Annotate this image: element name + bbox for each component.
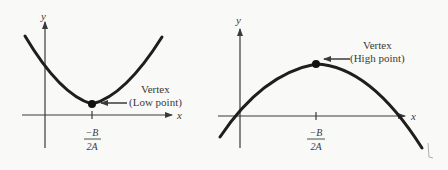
right-tick-numerator: −B xyxy=(310,127,323,138)
left-vertex-sublabel: (Low point) xyxy=(129,96,182,109)
left-vertex-label: Vertex xyxy=(141,83,170,95)
left-tick-denominator: 2A xyxy=(86,141,98,152)
right-graph: x y Vertex (High point) −B 2A xyxy=(218,14,433,158)
right-vertex-label: Vertex xyxy=(363,39,392,51)
left-tick-numerator: −B xyxy=(86,127,99,138)
right-vertex-point xyxy=(312,60,320,68)
right-x-axis-label: x xyxy=(410,110,416,122)
left-y-axis-label: y xyxy=(40,10,46,22)
left-x-axis-label: x xyxy=(176,109,182,121)
scan-bracket-mark xyxy=(428,143,433,158)
figure-canvas: x y Vertex (Low point) −B 2A x y Vertex … xyxy=(0,0,448,170)
left-graph: x y Vertex (Low point) −B 2A xyxy=(22,10,182,152)
right-tick-denominator: 2A xyxy=(310,141,322,152)
parabola-vertex-figure: x y Vertex (Low point) −B 2A x y Vertex … xyxy=(0,0,448,170)
right-vertex-sublabel: (High point) xyxy=(350,52,405,65)
right-y-axis-label: y xyxy=(235,14,241,26)
left-vertex-point xyxy=(88,100,96,108)
